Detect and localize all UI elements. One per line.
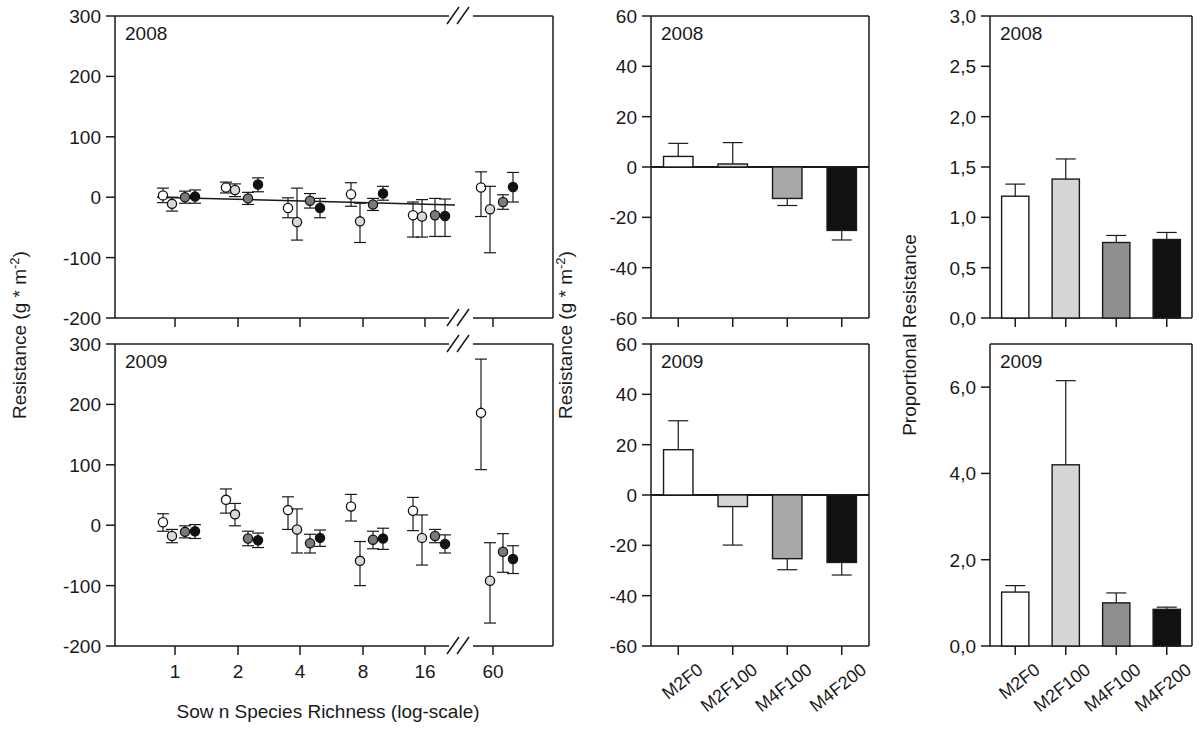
scatter-marker-darkgray-circle <box>498 197 507 206</box>
panel-year-label: 2009 <box>661 351 703 372</box>
scatter-marker-open-circle <box>408 211 417 220</box>
scatter-marker-darkgray-circle <box>498 547 507 556</box>
bar-y-tick-label: 1,5 <box>950 157 976 178</box>
scatter-y-tick-label: 0 <box>90 515 101 536</box>
scatter-axis-break-top <box>457 7 469 24</box>
scatter-marker-lightgray-circle <box>417 212 426 221</box>
scatter-marker-open-circle <box>476 183 485 192</box>
bar-y-tick-label: 1,0 <box>950 207 976 228</box>
bar-category-label: M4F200 <box>1131 659 1195 715</box>
bar-rect <box>664 156 693 167</box>
bar-y-tick-label: 0,0 <box>950 308 976 329</box>
bar-y-tick-label: -60 <box>610 636 637 657</box>
scatter-marker-lightgray-circle <box>167 199 176 208</box>
scatter-marker-black-circle <box>315 533 324 542</box>
scatter-marker-darkgray-circle <box>180 193 189 202</box>
scatter-marker-lightgray-circle <box>485 205 494 214</box>
scatter-marker-open-circle <box>346 502 355 511</box>
bar-y-tick-label: -20 <box>610 535 637 556</box>
scatter-marker-open-circle <box>283 203 292 212</box>
x-axis-title: Sow n Species Richness (log-scale) <box>176 701 479 722</box>
bar-rect <box>664 450 693 495</box>
scatter-marker-black-circle <box>190 527 199 536</box>
right-y-axis-title: Proportional Resistance <box>899 234 920 436</box>
scatter-marker-black-circle <box>440 539 449 548</box>
bar-y-tick-label: -40 <box>610 258 637 279</box>
scatter-marker-lightgray-circle <box>292 525 301 534</box>
left-y-axis-title: Resistance (g * m-2) <box>7 251 30 419</box>
scatter-marker-darkgray-circle <box>368 535 377 544</box>
bar-category-label: M4F100 <box>1080 659 1144 715</box>
scatter-y-tick-label: 300 <box>69 6 101 27</box>
panel-year-label: 2008 <box>661 23 703 44</box>
scatter-marker-black-circle <box>315 203 324 212</box>
scatter-marker-darkgray-circle <box>368 200 377 209</box>
scatter-marker-lightgray-circle <box>417 533 426 542</box>
scatter-marker-lightgray-circle <box>355 556 364 565</box>
bar-rect <box>718 495 747 507</box>
scatter-y-tick-label: 200 <box>69 66 101 87</box>
scatter-marker-open-circle <box>476 408 485 417</box>
bar-rect <box>827 495 856 562</box>
bar-y-tick-label: 2,0 <box>950 107 976 128</box>
scatter-x-tick-label: 1 <box>170 661 181 682</box>
scatter-marker-black-circle <box>378 189 387 198</box>
scatter-y-tick-label: 0 <box>90 187 101 208</box>
scatter-marker-open-circle <box>346 190 355 199</box>
scatter-marker-black-circle <box>378 534 387 543</box>
scatter-marker-darkgray-circle <box>180 527 189 536</box>
bar-category-label: M2F100 <box>1030 659 1094 715</box>
scatter-marker-darkgray-circle <box>430 211 439 220</box>
bar-rect <box>1153 609 1180 646</box>
scatter-y-tick-label: 300 <box>69 334 101 355</box>
multi-panel-figure: -200-10001002003002008-200-1000100200300… <box>0 0 1199 743</box>
bar-y-tick-label: 6,0 <box>950 377 976 398</box>
scatter-marker-open-circle <box>408 506 417 515</box>
scatter-axis-break-top <box>457 335 469 352</box>
bar-rect <box>1052 465 1079 646</box>
scatter-marker-darkgray-circle <box>305 539 314 548</box>
bar-rect <box>773 495 802 559</box>
bar-y-tick-label: 60 <box>616 334 637 355</box>
scatter-y-tick-label: -200 <box>63 308 101 329</box>
scatter-y-tick-label: -100 <box>63 576 101 597</box>
scatter-x-tick-label: 8 <box>358 661 369 682</box>
panel-year-label: 2008 <box>125 23 167 44</box>
bar-y-tick-label: 40 <box>616 384 637 405</box>
scatter-marker-lightgray-circle <box>485 576 494 585</box>
bar-y-tick-label: 2,0 <box>950 550 976 571</box>
bar-rect <box>773 167 802 198</box>
left-y-axis-title-text: Resistance (g * m-2) <box>7 251 30 419</box>
scatter-marker-darkgray-circle <box>430 531 439 540</box>
scatter-axis-break-bottom <box>457 309 469 326</box>
bar-y-tick-label: 0,5 <box>950 258 976 279</box>
mid-y-axis-title-text: Resistance (g * m-2) <box>553 251 576 419</box>
scatter-marker-black-circle <box>508 554 517 563</box>
scatter-axis-break-bottom <box>457 637 469 654</box>
bar-rect <box>827 167 856 230</box>
bar-rect <box>1002 592 1029 646</box>
scatter-marker-darkgray-circle <box>243 194 252 203</box>
scatter-y-tick-label: 100 <box>69 127 101 148</box>
scatter-x-tick-label: 60 <box>482 661 503 682</box>
scatter-y-tick-label: 100 <box>69 455 101 476</box>
bar-y-tick-label: 60 <box>616 6 637 27</box>
scatter-marker-open-circle <box>158 191 167 200</box>
bar-y-tick-label: 4,0 <box>950 463 976 484</box>
bar-rect <box>1103 243 1130 319</box>
scatter-marker-lightgray-circle <box>292 217 301 226</box>
scatter-marker-black-circle <box>253 180 262 189</box>
scatter-y-tick-label: 200 <box>69 394 101 415</box>
scatter-x-tick-label: 2 <box>233 661 244 682</box>
bar-rect <box>1103 603 1130 646</box>
scatter-marker-black-circle <box>508 182 517 191</box>
scatter-x-tick-label: 4 <box>295 661 306 682</box>
bar-rect <box>1002 196 1029 318</box>
scatter-x-tick-label: 16 <box>414 661 435 682</box>
scatter-marker-black-circle <box>190 192 199 201</box>
scatter-marker-black-circle <box>440 211 449 220</box>
scatter-y-tick-label: -200 <box>63 636 101 657</box>
bar-y-tick-label: -60 <box>610 308 637 329</box>
scatter-marker-black-circle <box>253 536 262 545</box>
bar-category-label: M4F200 <box>806 659 870 715</box>
